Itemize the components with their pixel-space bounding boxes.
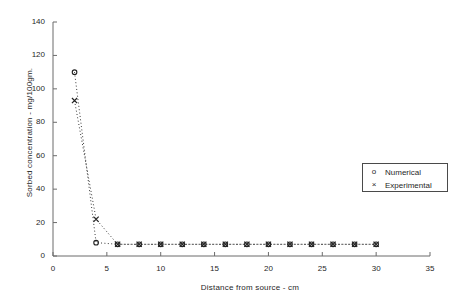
legend-cross-icon: × [363,181,385,189]
x-tick-label: 25 [302,264,342,273]
y-tick-label: 100 [7,84,45,93]
y-tick-label: 140 [7,17,45,26]
y-tick-label: 40 [7,184,45,193]
legend-label-numerical: Numerical [385,168,421,177]
y-tick-label: 60 [7,151,45,160]
marker-cross [72,98,77,103]
marker-cross [93,217,98,222]
x-tick-label: 15 [195,264,235,273]
chart-legend: o Numerical × Experimental [362,163,448,192]
y-tick-label: 120 [7,50,45,59]
x-tick-label: 0 [33,264,73,273]
legend-item-experimental: × Experimental [363,178,449,192]
x-tick-label: 30 [356,264,396,273]
legend-circle-icon: o [363,168,385,176]
chart-figure: Sorbed concentration - mg/100gm. Distanc… [0,0,465,306]
x-tick-label: 10 [141,264,181,273]
legend-label-experimental: Experimental [385,181,432,190]
x-tick-label: 20 [248,264,288,273]
chart-plot-area [0,0,465,306]
y-tick-label: 80 [7,117,45,126]
x-tick-label: 5 [87,264,127,273]
y-tick-label: 0 [7,251,45,260]
legend-item-numerical: o Numerical [363,165,449,179]
series-line-experimental [75,101,377,245]
series-line-numerical [75,72,377,244]
x-axis-label: Distance from source - cm [170,283,330,292]
x-tick-label: 35 [410,264,450,273]
y-tick-label: 20 [7,218,45,227]
